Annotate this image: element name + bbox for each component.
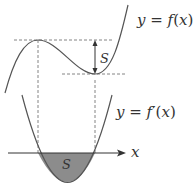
fprime-curve-label: y = f′(x) [115,103,176,121]
gap-arrow-icon [93,40,98,74]
x-axis-label: x [131,143,140,161]
gap-label-s: S [100,51,109,66]
f-curve-label: y = f(x) [136,11,193,29]
calculus-diagram: S S x y = f(x) y = f′(x) [0,0,194,186]
cubic-curve-f [5,5,128,93]
area-label-s: S [62,157,71,172]
